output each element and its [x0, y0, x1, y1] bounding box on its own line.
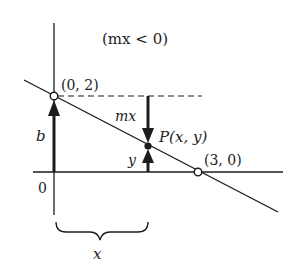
- y-arrow: [142, 149, 154, 172]
- x-brace: [56, 222, 148, 240]
- x-brace-label: x: [93, 245, 102, 263]
- origin-label: 0: [38, 180, 47, 196]
- x-intercept-label: (3, 0): [204, 152, 242, 168]
- mx-arrow: [142, 96, 154, 143]
- b-label: b: [36, 127, 46, 145]
- mx-label: mx: [115, 108, 136, 124]
- y-intercept-label: (0, 2): [61, 77, 99, 93]
- y-label: y: [127, 152, 137, 168]
- b-arrow: [48, 100, 60, 172]
- point-p: [144, 142, 151, 149]
- point-x-intercept: [194, 168, 202, 176]
- condition-label: (mx < 0): [102, 30, 168, 48]
- point-y-intercept: [50, 92, 58, 100]
- line-slope-intercept-diagram: (mx < 0) (0, 2) mx b P(x, y) y (3, 0) 0 …: [0, 0, 304, 272]
- p-label: P(x, y): [158, 128, 207, 146]
